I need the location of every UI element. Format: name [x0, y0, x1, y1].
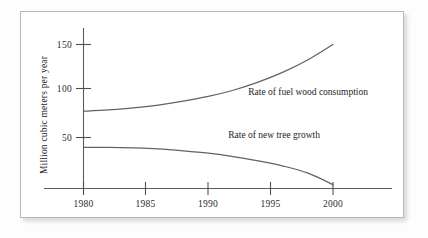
x-tick-label-1995: 1995	[260, 199, 280, 209]
x-tick-label-1985: 1985	[135, 199, 155, 209]
series-line-fuel-wood-consumption	[84, 45, 334, 112]
y-axis-title: Million cubic meters per year	[39, 55, 49, 174]
x-tick-label-2000: 2000	[323, 199, 343, 209]
series-line-new-tree-growth	[84, 147, 334, 184]
line-chart: 150 100 50 1980 1985 1990 1995 2000 Mill…	[0, 0, 428, 238]
series-label-new-tree-growth: Rate of new tree growth	[228, 130, 320, 140]
y-tick-label-50: 50	[62, 133, 72, 143]
x-tick-label-1990: 1990	[198, 199, 218, 209]
series-label-fuel-wood-consumption: Rate of fuel wood consumption	[248, 87, 368, 97]
y-tick-label-150: 150	[57, 40, 72, 50]
x-tick-label-1980: 1980	[73, 199, 93, 209]
chart-figure: 150 100 50 1980 1985 1990 1995 2000 Mill…	[0, 0, 428, 238]
y-tick-label-100: 100	[57, 84, 72, 94]
